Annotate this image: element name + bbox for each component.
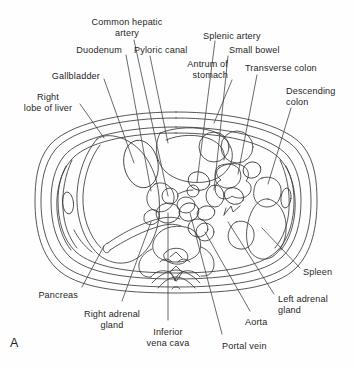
leader-line-duodenum [126, 55, 151, 191]
right-lateral-rib-structures [57, 160, 92, 252]
duodenum-outline [147, 183, 174, 212]
leader-line-pyloric-canal [150, 56, 168, 143]
leader-line-right-adrenal-gland [122, 222, 151, 301]
label-aorta: Aorta [245, 317, 268, 328]
label-right-adrenal-gland: Right adrenal gland [84, 309, 140, 330]
spleen-outline [247, 199, 287, 259]
label-right-lobe-of-liver: Right lobe of liver [24, 92, 72, 113]
label-duodenum: Duodenum [76, 45, 122, 56]
stomach-body-outline [221, 131, 253, 163]
label-common-hepatic-artery: Common hepatic artery [92, 17, 163, 38]
label-spleen: Spleen [303, 267, 332, 278]
label-pyloric-canal: Pyloric canal [134, 45, 188, 56]
panel-letter: A [10, 336, 19, 350]
label-descending-colon: Descending colon [286, 86, 336, 107]
label-pancreas: Pancreas [38, 290, 78, 301]
label-inferior-vena-cava: Inferior vena cava [147, 327, 190, 348]
abdominal-wall-muscle-layer [51, 127, 301, 279]
label-transverse-colon: Transverse colon [245, 63, 317, 74]
label-splenic-artery: Splenic artery [203, 31, 261, 42]
label-left-adrenal-gland: Left adrenal gland [278, 294, 328, 315]
figure-panel: Common hepatic arteryDuodenumPyloric can… [0, 0, 355, 367]
small-bowel-loops [177, 132, 246, 239]
label-antrum-of-stomach: Antrum of stomach [187, 59, 228, 80]
transverse-colon-outline [215, 164, 251, 199]
label-small-bowel: Small bowel [229, 45, 280, 56]
label-portal-vein: Portal vein [222, 341, 267, 352]
vertebral-body-outline [153, 226, 201, 264]
label-gallbladder: Gallbladder [52, 71, 100, 82]
left-adrenal-gland-arrowhead [224, 206, 240, 215]
leader-line-spleen [262, 228, 300, 268]
leader-line-portal-vein [190, 213, 222, 334]
leader-line-antrum-of-stomach [214, 80, 232, 123]
leader-line-right-lobe-of-liver [80, 104, 104, 138]
leader-line-descending-colon [268, 108, 291, 184]
